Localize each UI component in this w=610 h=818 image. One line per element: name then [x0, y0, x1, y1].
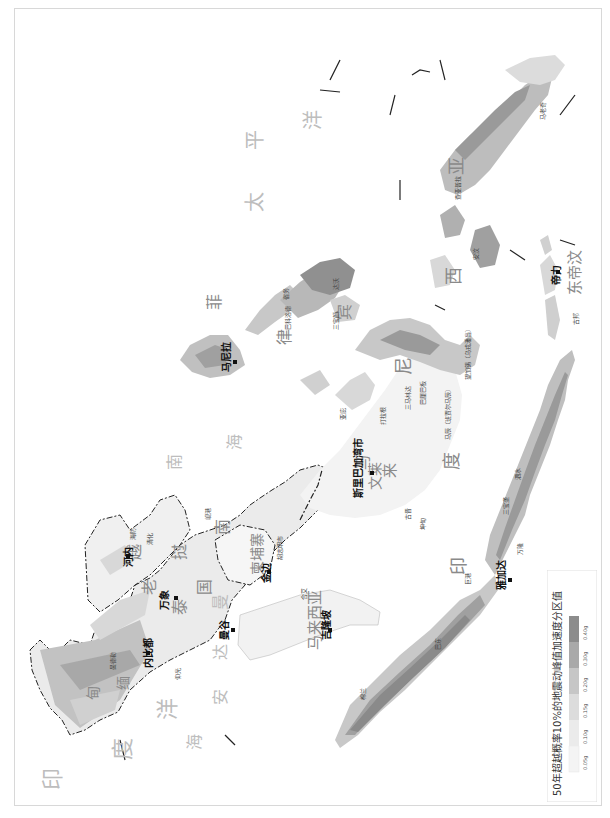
ocean-label-andaman-1: 安 — [211, 689, 230, 705]
city-balikpapan: 巴厘巴板 — [419, 381, 427, 405]
city-tarakan: 打拉根 — [379, 407, 387, 425]
ocean-label-andaman-4: 海 — [185, 734, 204, 750]
country-label-east-timor: 东帝汶 — [566, 250, 584, 295]
country-label-laos-1: 老 — [140, 579, 159, 595]
country-label-indonesia-2: 度 — [441, 452, 462, 470]
country-label-indonesia-4: 西 — [443, 267, 464, 285]
city-makassar: 望加锡（乌戎潘当） — [464, 326, 472, 380]
country-label-indonesia-3: 尼 — [393, 357, 414, 375]
city-bacolod: 巴科洛德 — [284, 306, 292, 330]
capital-dili: 帝力 — [550, 265, 562, 285]
legend-title: 50年超越概率10%的地震动峰值加速度分区值 — [551, 591, 563, 796]
city-kuching: 古晋 — [404, 508, 412, 520]
legend-swatch-2 — [569, 694, 579, 720]
capital-manila: 马尼拉 — [220, 342, 232, 372]
legend-label-2: 0.15g — [582, 704, 589, 718]
legend: 50年超越概率10%的地震动峰值加速度分区值 0.05g 0.10g 0.15g… — [547, 570, 597, 802]
capital-jakarta: 雅加达 — [495, 560, 507, 590]
capital-naypyidaw: 内比都 — [142, 638, 154, 668]
country-label-indonesia-1: 印 — [448, 557, 469, 575]
ocean-label-indian-1: 印 — [40, 768, 65, 790]
capital-bandar-seri-begawan: 斯里巴加湾市 — [352, 438, 364, 498]
city-ho-chi-minh: 胡志明市 — [276, 536, 284, 560]
ocean-label-scs-2: 海 — [225, 434, 244, 450]
city-hat-yai: 合艾 — [300, 588, 308, 600]
national-borders — [120, 60, 575, 760]
city-thanh-hoa: 清化 — [146, 533, 154, 545]
capital-hanoi: 河内 — [122, 547, 134, 567]
country-label-indonesia-5: 亚 — [446, 157, 467, 175]
country-label-laos-2: 挝 — [170, 544, 189, 560]
legend-label-3: 0.20g — [582, 678, 589, 692]
capital-bangkok: 曼谷 — [218, 619, 230, 640]
legend-label-0: 0.05g — [582, 756, 589, 770]
city-kota-kinabalu: 亚庇 — [339, 408, 347, 420]
ocean-label-indian-3: 洋 — [155, 698, 180, 720]
city-kupang: 古邦 — [572, 313, 580, 325]
country-label-thailand-1: 泰 — [170, 599, 189, 615]
capital-phnom-penh: 金边 — [260, 562, 272, 584]
country-label-malaysia-borneo-2: 来 — [381, 463, 399, 478]
city-surabaya: 泗水 — [514, 468, 522, 480]
legend-swatch-0 — [569, 746, 579, 772]
ocean-label-andaman-3: 曼 — [211, 594, 230, 610]
country-label-myanmar-2: 甸 — [85, 686, 101, 700]
city-palembang: 巨港 — [464, 573, 472, 585]
seismic-zoning-map: 太 平 洋 印 度 洋 安 达 曼 海 南 海 越 南 老 挝 泰 国 柬埔寨 … — [0, 0, 610, 818]
country-label-philippines-1: 菲 — [205, 294, 224, 310]
city-merauke: 马老奇 — [539, 102, 547, 120]
landmass-java — [485, 350, 575, 575]
country-label-thailand-2: 国 — [195, 579, 214, 595]
legend-label-1: 0.10g — [582, 730, 589, 744]
legend-swatch-4 — [569, 642, 579, 668]
legend-swatch-5 — [569, 616, 579, 642]
landmass-borneo — [300, 350, 462, 518]
city-jayapura: 查亚普拉 — [454, 176, 462, 200]
city-ambon: 安汶 — [472, 248, 480, 260]
landmass-lesser-sunda — [540, 235, 560, 340]
city-pontianak: 坤甸 — [419, 518, 427, 530]
capital-vientiane: 万象 — [158, 590, 170, 611]
city-medan: 棉兰 — [359, 688, 367, 700]
city-mandalay: 曼德勒 — [109, 652, 117, 670]
legend-label-5: 0.40g — [582, 626, 589, 640]
country-label-myanmar-1: 缅 — [115, 676, 131, 690]
ocean-label-pacific-3: 洋 — [301, 110, 325, 130]
city-samarinda: 三马林达 — [404, 386, 412, 410]
city-da-nang: 岘港 — [204, 508, 212, 520]
legend-label-4: 0.30g — [582, 652, 589, 666]
ocean-label-pacific-2: 平 — [243, 130, 267, 150]
city-padang: 巴东 — [434, 638, 441, 650]
city-banjarmasin: 马辰（班贾尔马辰） — [444, 386, 452, 440]
city-bandung: 万隆 — [516, 543, 524, 555]
city-davao: 达沃 — [332, 278, 340, 290]
city-haiphong: 海防 — [129, 528, 137, 540]
legend-swatches — [569, 616, 579, 772]
ocean-label-pacific-1: 太 — [243, 192, 267, 212]
city-cebu: 宿务 — [282, 288, 290, 300]
legend-swatch-1 — [569, 720, 579, 746]
country-label-vietnam-2: 南 — [213, 519, 232, 535]
legend-swatch-3 — [569, 668, 579, 694]
city-semarang: 三宝垄 — [502, 497, 509, 515]
capital-kuala-lumpur: 吉隆坡 — [320, 609, 332, 640]
ocean-label-andaman-2: 达 — [211, 644, 230, 660]
city-zamboanga: 三宝颜 — [332, 312, 340, 330]
city-yangon: 仰光 — [174, 668, 182, 680]
ocean-label-indian-2: 度 — [110, 738, 135, 760]
country-label-philippines-2: 律 — [275, 329, 294, 345]
ocean-label-scs-1: 南 — [165, 454, 184, 470]
